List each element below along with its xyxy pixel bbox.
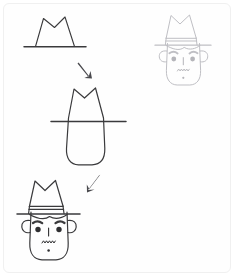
eyebrow-right — [190, 52, 198, 54]
ear-right — [200, 51, 208, 62]
hat-crown-two-peaks — [166, 15, 196, 38]
ear-left — [22, 220, 30, 232]
eyebrow-left — [33, 221, 42, 223]
hat-crown-two-peaks — [36, 17, 75, 47]
step-3-figure — [17, 181, 80, 260]
eyebrow-left — [169, 52, 177, 54]
ear-left — [159, 51, 167, 62]
eye-right — [190, 57, 195, 62]
arrow-2 — [87, 175, 100, 193]
step-2-figure — [51, 88, 126, 165]
step-preview-face-lines — [177, 58, 189, 71]
hat-crown-two-peaks — [30, 181, 64, 207]
eye-left — [171, 57, 176, 62]
drawing-canvas — [0, 0, 234, 276]
mouth-zigzag — [177, 69, 189, 71]
eye-left — [35, 227, 40, 232]
arrow-1-shaft-and-head — [78, 63, 93, 79]
mouth-zigzag — [42, 241, 55, 243]
hair-fringe — [166, 46, 200, 50]
head-outline-rounded — [66, 118, 104, 165]
tutorial-page: How to draw a face with a hat - step by … — [0, 0, 234, 276]
hat-crown-two-peaks — [69, 88, 104, 118]
arrow-2-shaft-and-head — [87, 175, 100, 193]
step-3-face-lines — [42, 228, 55, 243]
ear-right — [68, 220, 76, 232]
step-1-figure — [24, 17, 86, 47]
hair-fringe — [30, 215, 68, 219]
step-preview-figure — [155, 15, 211, 85]
eyebrow-right — [56, 221, 65, 223]
chin-dot — [182, 77, 184, 79]
arrow-1 — [78, 63, 93, 79]
chin-dot — [47, 249, 50, 252]
eye-right — [56, 227, 61, 232]
